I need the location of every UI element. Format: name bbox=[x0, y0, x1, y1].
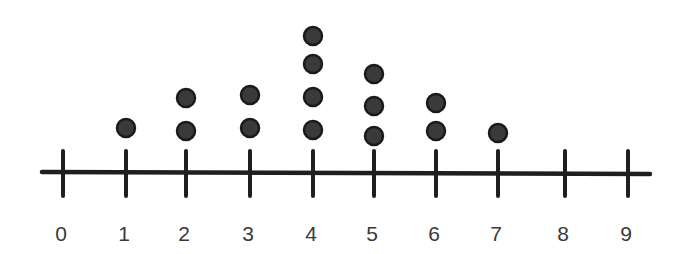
data-dot bbox=[489, 124, 507, 142]
data-dot bbox=[241, 86, 259, 104]
data-dot bbox=[117, 119, 135, 137]
tick-label: 0 bbox=[55, 222, 67, 245]
tick-label: 8 bbox=[557, 222, 569, 245]
axis-line bbox=[42, 172, 650, 174]
data-dots bbox=[117, 27, 507, 145]
data-dot bbox=[304, 88, 322, 106]
tick-label: 4 bbox=[305, 222, 317, 245]
data-dot bbox=[241, 119, 259, 137]
tick-label: 6 bbox=[428, 222, 440, 245]
tick-label: 9 bbox=[620, 222, 632, 245]
data-dot bbox=[304, 27, 322, 45]
tick-labels: 0123456789 bbox=[55, 222, 632, 245]
data-dot bbox=[304, 55, 322, 73]
tick-label: 7 bbox=[490, 222, 502, 245]
data-dot bbox=[427, 94, 445, 112]
data-dot bbox=[177, 122, 195, 140]
data-dot bbox=[365, 127, 383, 145]
tick-label: 2 bbox=[178, 222, 190, 245]
tick-label: 5 bbox=[366, 222, 378, 245]
data-dot bbox=[365, 65, 383, 83]
data-dot bbox=[427, 122, 445, 140]
data-dot bbox=[177, 89, 195, 107]
data-dot bbox=[304, 121, 322, 139]
dot-plot: 0123456789 bbox=[0, 0, 690, 254]
tick-label: 3 bbox=[242, 222, 254, 245]
number-line bbox=[42, 151, 650, 196]
data-dot bbox=[365, 97, 383, 115]
tick-label: 1 bbox=[118, 222, 130, 245]
